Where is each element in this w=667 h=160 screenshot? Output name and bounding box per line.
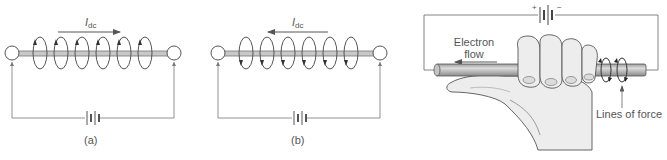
battery-icon-b — [294, 111, 306, 125]
battery-icon-c — [540, 5, 552, 25]
diagram-canvas: Idc — [0, 0, 667, 160]
electron-flow-label-line2: flow — [464, 48, 484, 60]
caption-a: (a) — [84, 134, 97, 146]
panel-c: + − Electron flow — [424, 3, 662, 150]
terminal-right-a — [167, 46, 181, 60]
current-label-b: Idc — [292, 16, 304, 30]
current-label-a: Idc — [85, 16, 97, 30]
conductor-wire-a — [18, 51, 168, 56]
battery-plus-label: + — [532, 3, 537, 12]
panel-a: Idc — [5, 16, 181, 146]
terminal-right-b — [373, 46, 387, 60]
electron-flow-label-line1: Electron — [454, 36, 494, 48]
terminal-left-a — [5, 46, 19, 60]
lines-of-force-label: Lines of force — [596, 108, 662, 120]
terminal-left-b — [211, 46, 225, 60]
caption-b: (b) — [291, 134, 304, 146]
conductor-wire-b — [224, 51, 374, 56]
battery-icon-a — [87, 111, 99, 125]
battery-minus-label: − — [557, 3, 562, 12]
panel-b: Idc (b) — [211, 16, 387, 146]
